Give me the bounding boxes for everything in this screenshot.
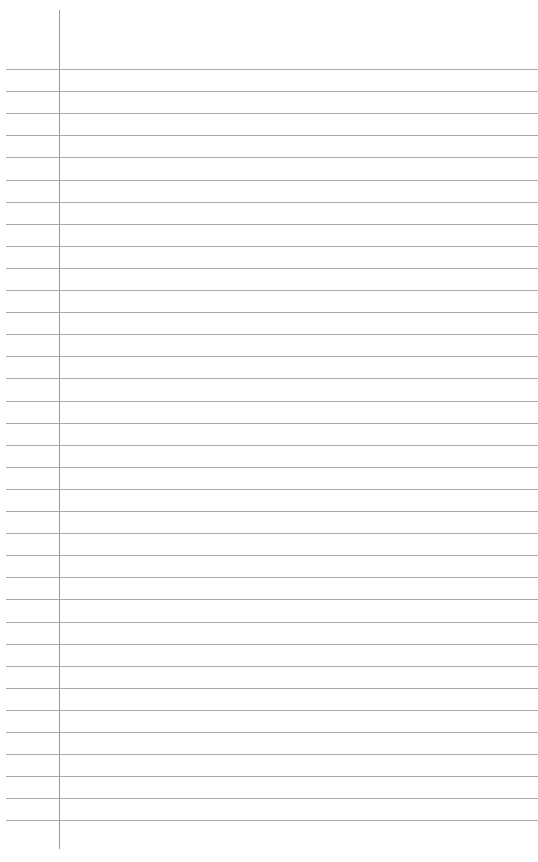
ruled-line (6, 732, 538, 733)
ruled-line (6, 312, 538, 313)
ruled-line (6, 820, 538, 821)
ruled-line (6, 710, 538, 711)
ruled-line (6, 489, 538, 490)
ruled-line (6, 445, 538, 446)
ruled-line (6, 423, 538, 424)
ruled-line (6, 555, 538, 556)
ruled-line (6, 577, 538, 578)
ruled-line (6, 246, 538, 247)
ruled-line (6, 135, 538, 136)
ruled-line (6, 268, 538, 269)
ruled-line (6, 401, 538, 402)
ruled-line (6, 533, 538, 534)
ruled-line (6, 599, 538, 600)
lined-paper-sheet (0, 0, 538, 862)
ruled-line (6, 644, 538, 645)
ruled-line (6, 754, 538, 755)
ruled-line (6, 776, 538, 777)
ruled-line (6, 334, 538, 335)
ruled-line (6, 666, 538, 667)
ruled-line (6, 622, 538, 623)
ruled-line (6, 378, 538, 379)
ruled-line (6, 688, 538, 689)
ruled-line (6, 798, 538, 799)
ruled-line (6, 467, 538, 468)
ruled-line (6, 356, 538, 357)
ruled-line (6, 69, 538, 70)
ruled-line (6, 157, 538, 158)
ruled-line (6, 202, 538, 203)
ruled-line (6, 180, 538, 181)
ruled-line (6, 224, 538, 225)
ruled-line (6, 511, 538, 512)
ruled-line (6, 113, 538, 114)
ruled-line (6, 290, 538, 291)
ruled-line (6, 91, 538, 92)
